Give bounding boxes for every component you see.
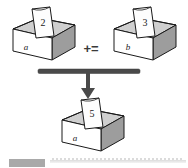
box-result-variable-label: a <box>73 133 78 143</box>
box-b-variable-label: b <box>126 42 131 52</box>
footer-rule <box>50 160 186 163</box>
box-a-card-value: 2 <box>41 17 46 28</box>
diagram-canvas: 2 a += 3 b 5 a <box>0 0 188 168</box>
box-a-variable-label: a <box>24 42 29 52</box>
box-result-card-value: 5 <box>90 108 95 119</box>
operator-plus-equals: += <box>83 41 99 56</box>
footer-strip <box>0 156 188 168</box>
horizontal-bar <box>38 69 140 74</box>
down-arrow-shaft <box>86 73 90 90</box>
box-b-card-value: 3 <box>143 17 148 28</box>
footer-chip[interactable] <box>9 159 45 167</box>
